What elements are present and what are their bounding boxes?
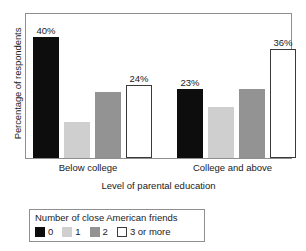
legend-swatch-icon-2 (90, 227, 100, 237)
bar-college-and-above-3-or-more (270, 49, 296, 158)
bar-value-label-below-college-3-or-more: 24% (118, 73, 160, 84)
bar-college-and-above-2 (239, 89, 265, 158)
legend-label-1: 1 (75, 226, 80, 237)
bar-below-college-1 (64, 122, 90, 158)
x-category-label-below-college: Below college (28, 162, 148, 173)
legend-item-1: 1 (62, 226, 80, 237)
legend-swatch-icon-3 (117, 227, 127, 237)
legend-label-2: 2 (103, 226, 108, 237)
legend: Number of close American friends 0 1 2 3… (29, 209, 205, 242)
bar-below-college-3-or-more (126, 85, 152, 158)
legend-swatch-icon-1 (62, 227, 72, 237)
bar-slot (64, 13, 90, 158)
bar-slot: 24% (126, 13, 152, 158)
bar-below-college-0 (33, 37, 59, 158)
bar-college-and-above-0 (177, 89, 203, 158)
bar-slot (95, 13, 121, 158)
x-axis-title: Level of parental education (25, 180, 292, 191)
bar-college-and-above-1 (208, 107, 234, 158)
legend-swatch-icon-0 (35, 227, 45, 237)
bar-slot (239, 13, 265, 158)
legend-item-3: 3 or more (117, 226, 171, 237)
bar-slot (208, 13, 234, 158)
bar-slot: 36% (270, 13, 296, 158)
legend-label-3: 3 or more (130, 226, 171, 237)
x-category-label-college-and-above: College and above (170, 162, 295, 173)
bars-layer: 40% 24% 23% (25, 13, 292, 158)
bar-below-college-2 (95, 92, 121, 158)
bar-group-college-and-above: 23% 36% (177, 13, 297, 158)
bar-slot: 40% (33, 13, 59, 158)
bar-value-label-below-college-0: 40% (25, 25, 67, 36)
bar-slot: 23% (177, 13, 203, 158)
legend-item-0: 0 (35, 226, 53, 237)
legend-items: 0 1 2 3 or more (35, 226, 204, 237)
legend-label-0: 0 (48, 226, 53, 237)
legend-item-2: 2 (90, 226, 108, 237)
bar-value-label-college-and-above-0: 23% (169, 77, 211, 88)
bar-chart-figure: Percentage of respondents 40% 24% (0, 0, 306, 251)
y-axis-title: Percentage of respondents (12, 9, 23, 159)
bar-group-below-college: 40% 24% (33, 13, 153, 158)
bar-value-label-college-and-above-3-or-more: 36% (262, 37, 304, 48)
legend-title: Number of close American friends (35, 212, 204, 224)
